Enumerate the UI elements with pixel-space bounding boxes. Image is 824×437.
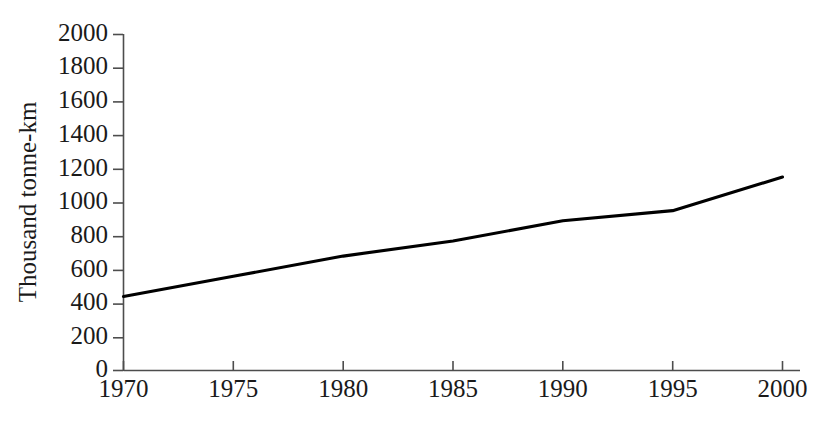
x-tick-label: 1980 bbox=[318, 375, 368, 402]
y-tick-label: 800 bbox=[71, 221, 109, 248]
x-tick-label: 1995 bbox=[648, 375, 698, 402]
y-axis-tick-labels: 2000 1800 1600 1400 1200 1000 800 600 40… bbox=[58, 19, 108, 382]
y-axis-title: Thousand tonne-km bbox=[14, 101, 41, 302]
y-tick-label: 600 bbox=[71, 255, 109, 282]
x-tick-label: 1985 bbox=[428, 375, 478, 402]
y-tick-label: 1400 bbox=[58, 120, 108, 147]
line-chart: 2000 1800 1600 1400 1200 1000 800 600 40… bbox=[0, 0, 824, 437]
y-tick-label: 400 bbox=[71, 288, 109, 315]
y-tick-label: 1000 bbox=[58, 187, 108, 214]
chart-figure: 2000 1800 1600 1400 1200 1000 800 600 40… bbox=[0, 0, 824, 437]
plot-area-background bbox=[123, 34, 782, 371]
y-tick-label: 200 bbox=[71, 322, 109, 349]
y-tick-label: 2000 bbox=[58, 19, 108, 46]
y-tick-label: 1600 bbox=[58, 86, 108, 113]
x-axis-tick-labels: 1970 1975 1980 1985 1990 1995 2000 bbox=[99, 375, 808, 402]
x-tick-label: 1990 bbox=[538, 375, 588, 402]
y-axis-ticks bbox=[113, 35, 123, 371]
x-tick-label: 1970 bbox=[99, 375, 149, 402]
y-tick-label: 1800 bbox=[58, 52, 108, 79]
x-tick-label: 2000 bbox=[758, 375, 808, 402]
x-tick-label: 1975 bbox=[208, 375, 258, 402]
y-tick-label: 1200 bbox=[58, 154, 108, 181]
